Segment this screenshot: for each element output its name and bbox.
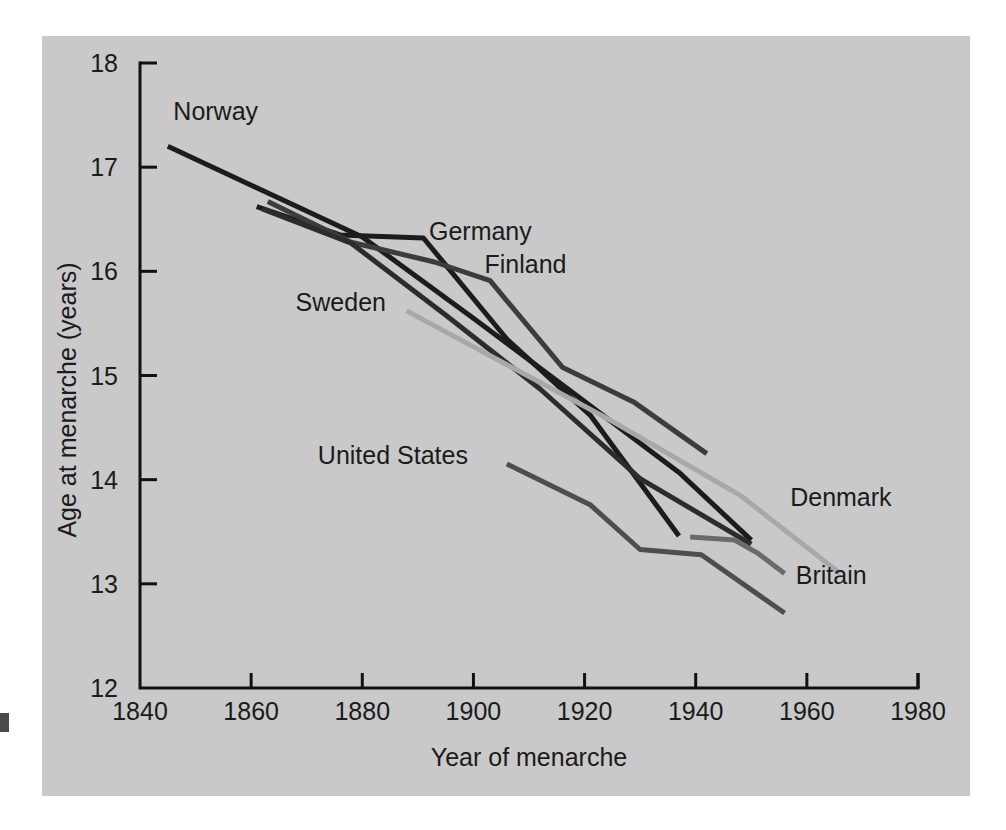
series-label-germany: Germany [429, 217, 532, 245]
x-tick-label: 1860 [223, 697, 279, 725]
series-label-sweden: Sweden [296, 288, 386, 316]
x-tick-label: 1840 [112, 697, 168, 725]
y-tick-label: 14 [90, 466, 118, 494]
y-tick-label: 15 [90, 362, 118, 390]
x-tick-label: 1980 [890, 697, 946, 725]
line-chart: 18401860188019001920194019601980 1213141… [0, 0, 1006, 830]
x-axis-title: Year of menarche [431, 743, 627, 771]
series-label-norway: Norway [173, 97, 258, 125]
y-tick-marks [140, 63, 157, 688]
y-tick-label: 16 [90, 257, 118, 285]
series-line-norway [168, 146, 752, 540]
series-label-britain: Britain [796, 561, 867, 589]
y-tick-label: 13 [90, 570, 118, 598]
series-label-united-states: United States [318, 441, 468, 469]
y-tick-labels: 12131415161718 [90, 49, 118, 702]
x-tick-label: 1920 [557, 697, 613, 725]
y-tick-label: 12 [90, 674, 118, 702]
y-tick-label: 17 [90, 153, 118, 181]
x-tick-label: 1960 [779, 697, 835, 725]
y-tick-label: 18 [90, 49, 118, 77]
figure-container: 18401860188019001920194019601980 1213141… [0, 0, 1006, 830]
series-label-denmark: Denmark [790, 483, 892, 511]
x-tick-label: 1940 [668, 697, 724, 725]
x-tick-marks [140, 673, 918, 688]
x-tick-labels: 18401860188019001920194019601980 [112, 697, 946, 725]
series-label-finland: Finland [485, 250, 567, 278]
x-tick-label: 1900 [446, 697, 502, 725]
x-tick-label: 1880 [334, 697, 390, 725]
y-axis-title: Age at menarche (years) [53, 262, 81, 537]
series-line-germany [257, 207, 679, 536]
series-labels-group: NorwayGermanyFinlandSwedenDenmarkBritain… [173, 97, 892, 589]
